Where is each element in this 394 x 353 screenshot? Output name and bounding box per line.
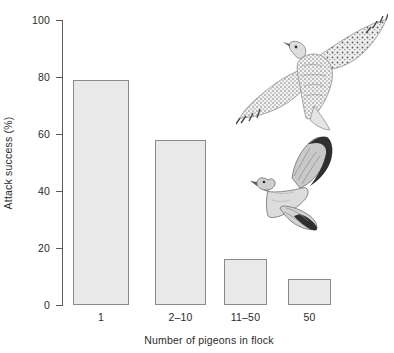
y-tick-label-0: 0 [44,299,50,311]
plot-area: 100 80 60 40 20 0 Attack success (%) 1 2… [0,0,394,353]
x-tick-label-11-50: 11–50 [224,311,267,323]
y-axis-title: Attack success (%) [2,117,14,210]
x-tick-label-50: 50 [288,311,331,323]
x-tick-label-2-10: 2–10 [155,311,206,323]
y-tick-label-100: 100 [32,14,50,26]
y-tick-60 [56,134,62,135]
y-tick-100 [56,20,62,21]
chart-figure: 100 80 60 40 20 0 Attack success (%) 1 2… [0,0,394,353]
y-tick-label-80: 80 [38,71,50,83]
bar-category-11-50 [224,259,267,305]
hawk-icon [236,6,388,132]
y-tick-0 [56,305,62,306]
y-tick-20 [56,248,62,249]
y-tick-label-20: 20 [38,242,50,254]
bar-category-1 [73,80,129,305]
x-tick-label-1: 1 [73,311,129,323]
x-axis-title: Number of pigeons in flock [0,334,394,346]
x-axis-title-text: Number of pigeons in flock [144,334,274,346]
y-tick-80 [56,77,62,78]
pigeon-icon [248,134,360,234]
y-axis-line [62,20,63,306]
bar-category-50 [288,279,331,305]
bar-category-2-10 [155,140,206,305]
y-tick-label-60: 60 [38,128,50,140]
y-tick-label-40: 40 [38,185,50,197]
y-tick-40 [56,191,62,192]
